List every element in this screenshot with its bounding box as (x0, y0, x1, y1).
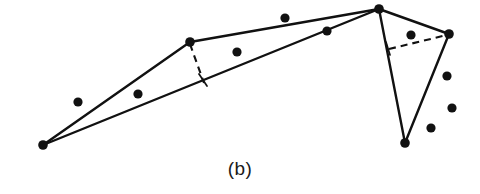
hull-vertex-point (185, 37, 195, 47)
data-point (232, 47, 241, 56)
hull-edge (379, 9, 449, 34)
hull-edge-group (43, 9, 449, 145)
data-point (442, 71, 451, 80)
hull-edge (379, 9, 405, 143)
figure-caption: (b) (0, 158, 480, 180)
data-point (322, 26, 331, 35)
data-point (280, 13, 289, 22)
data-point (73, 97, 82, 106)
dashed-construction-line (389, 35, 447, 49)
data-point (406, 30, 415, 39)
figure-panel: (b) (0, 0, 480, 194)
hull-vertex-point (374, 4, 384, 14)
hull-vertex-point (444, 29, 454, 39)
hull-vertex-point (38, 140, 48, 150)
data-point (133, 89, 142, 98)
dashed-construction-group (190, 35, 447, 83)
perpendicular-tick-group (199, 42, 390, 86)
data-point (426, 123, 435, 132)
hull-vertex-point (400, 138, 410, 148)
data-point (447, 103, 456, 112)
